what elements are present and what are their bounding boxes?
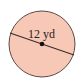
circle-diagram: 12 yd <box>0 0 83 82</box>
center-point <box>40 42 45 47</box>
diagram-canvas: 12 yd <box>0 0 83 82</box>
diameter-label: 12 yd <box>28 27 55 41</box>
